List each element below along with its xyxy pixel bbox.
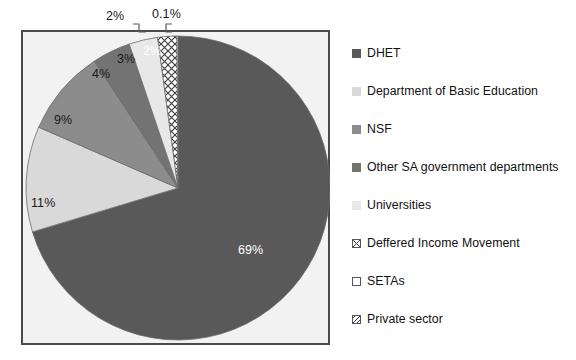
legend-item[interactable]: Deffered Income Movement: [352, 224, 574, 262]
legend-swatch-icon: [352, 315, 361, 324]
legend-item[interactable]: Department of Basic Education: [352, 72, 574, 110]
legend-item[interactable]: NSF: [352, 110, 574, 148]
legend-item[interactable]: Universities: [352, 186, 574, 224]
legend-swatch-icon: [352, 163, 361, 172]
pie-chart-figure: 2% 0.1% DHETDepartment of Basic Educatio…: [0, 0, 576, 360]
legend-item-label: SETAs: [367, 274, 405, 288]
legend-swatch-icon: [352, 201, 361, 210]
legend-item-label: Other SA government departments: [367, 160, 559, 174]
legend-item-label: DHET: [367, 46, 401, 60]
legend-swatch-icon: [352, 87, 361, 96]
legend: DHETDepartment of Basic EducationNSFOthe…: [352, 34, 574, 338]
legend-item-label: Deffered Income Movement: [367, 236, 520, 250]
pie-slice-value-label: 2%: [143, 44, 161, 58]
legend-item[interactable]: Other SA government departments: [352, 148, 574, 186]
legend-swatch-icon: [352, 239, 361, 248]
legend-swatch-icon: [352, 277, 361, 286]
deferred-income-callout: 2%: [106, 9, 124, 23]
legend-item[interactable]: DHET: [352, 34, 574, 72]
legend-item-label: Universities: [367, 198, 431, 212]
pie-slice-value-label: 3%: [117, 52, 135, 66]
pie-slice-value-label: 69%: [238, 243, 263, 257]
legend-item[interactable]: Private sector: [352, 300, 574, 338]
legend-item-label: NSF: [367, 122, 392, 136]
legend-item-label: Private sector: [367, 312, 443, 326]
pie-slice-value-label: 11%: [31, 196, 55, 210]
setas-callout: 0.1%: [152, 7, 181, 21]
legend-item-label: Department of Basic Education: [367, 84, 538, 98]
pie-slice-value-label: 4%: [92, 67, 110, 81]
pie-slice-value-label: 9%: [54, 113, 72, 127]
legend-swatch-icon: [352, 49, 361, 58]
legend-swatch-icon: [352, 125, 361, 134]
legend-item[interactable]: SETAs: [352, 262, 574, 300]
